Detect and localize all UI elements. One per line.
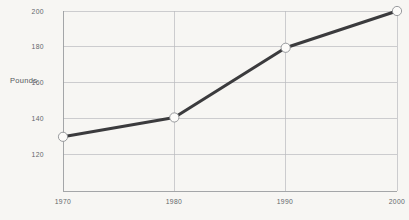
x-tick-label-2000: 2000 <box>389 198 406 205</box>
data-point-marker <box>170 113 179 122</box>
y-tick-label-160: 160 <box>32 79 44 86</box>
x-tick-label-1990: 1990 <box>277 198 294 205</box>
line-chart: Pounds 200 180 160 140 120 1970 1980 199… <box>0 0 409 220</box>
y-tick-label-200: 200 <box>32 8 44 15</box>
x-tick-label-1980: 1980 <box>166 198 183 205</box>
chart-svg: Pounds 200 180 160 140 120 1970 1980 199… <box>0 0 409 220</box>
y-tick-label-140: 140 <box>32 115 44 122</box>
data-point-marker <box>58 132 67 141</box>
data-point-marker <box>392 6 401 15</box>
data-point-marker <box>281 43 290 52</box>
x-tick-label-1970: 1970 <box>55 198 72 205</box>
chart-background <box>0 0 409 220</box>
y-tick-label-120: 120 <box>32 151 44 158</box>
y-tick-label-180: 180 <box>32 43 44 50</box>
